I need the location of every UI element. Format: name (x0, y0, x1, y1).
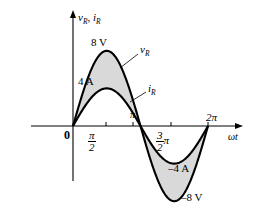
leader-line-voltage (120, 54, 138, 68)
peak-voltage-label: 8 V (91, 37, 107, 48)
x-axis-label: ωt (228, 132, 238, 142)
voltage-curve-label-sub: R (145, 49, 150, 58)
y-axis-label-i-sub: R (96, 17, 101, 26)
current-curve-label: iR (148, 83, 156, 97)
x-axis-ticks (106, 122, 208, 126)
trough-voltage-label: –8 V (181, 192, 203, 203)
x-tick-label-pi-over-2: π2 (88, 130, 96, 153)
x-tick-pi-over-2-denominator: 2 (88, 142, 96, 153)
y-axis-label: vR, iR (78, 12, 101, 26)
peak-current-label: 4 A (78, 76, 94, 87)
x-tick-label-two-pi: 2π (206, 112, 217, 123)
current-curve-label-sub: R (151, 88, 156, 97)
x-axis (31, 123, 243, 129)
y-axis (70, 10, 76, 181)
x-tick-3pi-over-2-denominator: 2 (156, 142, 164, 153)
waveform-figure: vR, iR ωt 0 π2 π 32π 2π 8 V 4 A –4 A –8 … (0, 0, 259, 219)
x-tick-3pi-over-2-suffix: π (164, 134, 170, 146)
x-tick-label-pi: π (130, 110, 135, 120)
x-tick-label-three-pi-over-2: 32π (156, 130, 169, 153)
voltage-curve-label: vR (140, 44, 149, 58)
trough-current-label: –4 A (168, 163, 189, 174)
x-tick-label-origin: 0 (64, 129, 70, 141)
